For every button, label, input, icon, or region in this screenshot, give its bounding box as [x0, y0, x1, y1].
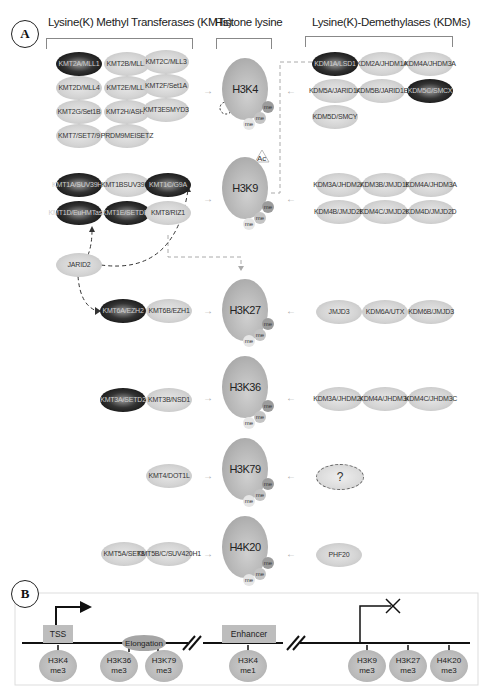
enzyme-kmt1a: KMT1A/SUV39H1: [56, 173, 102, 197]
me1-bead: me: [243, 495, 255, 507]
enzyme-kmt6a: KMT6A/EZH2: [100, 299, 146, 323]
elongation-complex: Elongation: [122, 635, 166, 651]
enzyme-kdm3b: KDM3B/JMJD1B: [362, 173, 408, 197]
regulator-jarid2: JARID2: [56, 253, 102, 277]
enzyme-kdm6b: KDM6B/JMJD3: [408, 300, 454, 324]
me2-bead: me: [254, 568, 266, 580]
me3-bead: me: [262, 101, 274, 113]
enzyme-kmt1e: KMT1E/SETDB1: [104, 201, 150, 225]
arrow-kdm-h3k9: ←: [286, 194, 296, 204]
panel-b-label: B: [11, 580, 39, 608]
arrow-kdm-h3k36: ←: [286, 393, 296, 403]
me1-bead: me: [243, 118, 255, 130]
arrow-kdm-h4k20: ←: [286, 549, 296, 559]
me2-bead: me: [254, 112, 266, 124]
enzyme-kdm4c: KDM4C/JMJD2C: [362, 200, 408, 224]
enzyme-kmt3e: KMT3ESMYD3: [143, 98, 189, 122]
enzyme-jmjd3: JMJD3: [316, 300, 362, 324]
arrow-kmt-h4k20: →: [203, 549, 213, 559]
mark-h3k9me3: H3K9me3: [348, 650, 386, 682]
acetyl-label: Ac: [257, 154, 266, 163]
mark-h3k36me3: H3K36me3: [100, 650, 138, 682]
mark-h3k4me1: H3K4me1: [229, 650, 267, 682]
enzyme-kdm4d: KDM4D/JMJD2D: [408, 200, 454, 224]
enzyme-phf20: PHF20: [316, 543, 362, 567]
enzyme-kdm2a: KDM2A/JHDM1A: [359, 52, 405, 76]
mark-h3k27me3: H3K27me3: [389, 650, 427, 682]
enzyme-kmt2d: KMT2D/MLL4: [56, 76, 102, 100]
enzyme-kmt1c: KMT1C/G9A: [145, 173, 191, 197]
enzyme-kdm4a: KDM4A/JHDM3A: [362, 387, 408, 411]
me3-bead: me: [262, 201, 274, 213]
enzyme-kdm4a: KDM4A/JHDM3A: [407, 52, 453, 76]
arrow-kmt-h3k4: →: [203, 86, 213, 96]
enzyme-kmt2a: KMT2A/MLL1: [56, 52, 102, 76]
enzyme-kdm4a: KDM4A/JHDM3A: [408, 173, 454, 197]
me2-bead: me: [254, 329, 266, 341]
me1-bead: me: [243, 335, 255, 347]
enzyme-kdm5c: KDM5C/SMCX: [407, 79, 453, 103]
enzyme-kmt5bc: KMT5B/C/SUV420H1: [146, 542, 192, 566]
me3-bead: me: [262, 557, 274, 569]
arrow-kdm-h3k79: ←: [286, 471, 296, 481]
enzyme-kdm5a: KDM5A/JARID1A: [312, 79, 358, 103]
arrow-kdm-h3k27: ←: [286, 306, 296, 316]
histone-h3k9: H3K9: [222, 157, 268, 219]
arrow-kmt-h3k36: →: [203, 393, 213, 403]
enzyme-kmt2g: KMT2G/Set1B: [56, 100, 102, 124]
me2-bead: me: [254, 411, 266, 423]
enzyme-kmt2c: KMT2C/MLL3: [143, 50, 189, 74]
enzyme-kmt8: KMT8/RIZ1: [145, 201, 191, 225]
enzyme-kmt1b: KMT1BSUV39H2: [104, 173, 150, 197]
arrow-kdm-h3k4: ←: [286, 86, 296, 96]
enzyme-kmt3a: KMT3A/SETD2: [100, 388, 146, 412]
enzyme-kdm4b: KDM4B/JMJD2B: [316, 200, 362, 224]
me2-bead: me: [254, 489, 266, 501]
enzyme-unknown: ?: [316, 464, 364, 490]
enzyme-kdm5b: KDM5B/JARID1B: [359, 79, 405, 103]
histone-h3k4: H3K4: [222, 58, 268, 120]
enzyme-kmt1d: KMT1D/EuHMTase1: [56, 201, 102, 225]
enzyme-kdm4c: KDM4C/JHDM3C: [408, 387, 454, 411]
me3-bead: me: [262, 318, 274, 330]
enzyme-prdm9: PRDM9MEISETZ: [104, 124, 150, 148]
enzyme-kdm3a: KDM3A/JHDM2A: [316, 387, 362, 411]
me1-bead: me: [243, 574, 255, 586]
enzyme-kmt3b: KMT3B/NSD1: [146, 388, 192, 412]
enzyme-kdm6a: KDM6A/UTX: [362, 300, 408, 324]
me3-bead: me: [262, 400, 274, 412]
mark-h3k4me3: H3K4me3: [39, 650, 77, 682]
enzyme-kdm5d: KDM5D/SMCY: [312, 105, 358, 129]
arrow-kmt-h3k9: →: [203, 194, 213, 204]
enzyme-kmt2f: KMT2F/Set1A: [143, 74, 189, 98]
mark-h4k20me3: H4K20me3: [430, 650, 468, 682]
enzyme-kmt6b: KMT6B/EZH1: [146, 299, 192, 323]
tss-box: TSS: [43, 625, 73, 643]
mark-h3k79me3: H3K79me3: [145, 650, 183, 682]
me3-bead: me: [262, 478, 274, 490]
me1-bead: me: [243, 218, 255, 230]
me1-bead: me: [243, 417, 255, 429]
enzyme-kmt4: KMT4/DOT1L: [146, 464, 192, 488]
enzyme-kmt7: KMT7/SET7/9: [56, 124, 102, 148]
enhancer-box: Enhancer: [222, 625, 276, 643]
arrow-kmt-h3k27: →: [203, 306, 213, 316]
enzyme-kdm1a: KDM1A/LSD1: [312, 52, 358, 76]
histone-h3k36: H3K36: [222, 356, 268, 418]
me2-bead: me: [254, 212, 266, 224]
enzyme-kdm3a: KDM3A/JHDM2A: [316, 173, 362, 197]
arrow-kmt-h3k79: →: [203, 471, 213, 481]
